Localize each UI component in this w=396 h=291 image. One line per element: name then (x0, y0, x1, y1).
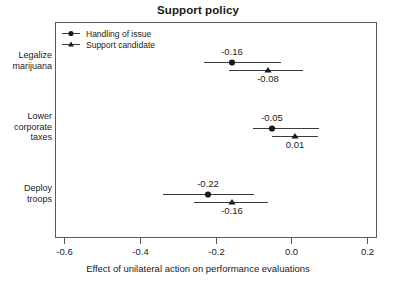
y-axis-label-deploy-troops: Deploy troops (0, 183, 52, 204)
x-tick-label-4: 0.2 (348, 246, 388, 257)
y-label-line: marijuana (12, 61, 52, 71)
x-tick-label-1: -0.4 (121, 246, 161, 257)
y-label-line: troops (27, 194, 52, 204)
y-label-line: corporate (14, 122, 52, 132)
chart-figure: Support policy (0, 0, 396, 291)
page-title: Support policy (0, 4, 396, 16)
data-label-handling-troops: -0.22 (186, 178, 230, 189)
legend-item-support-candidate[interactable]: Support candidate (86, 40, 155, 50)
y-label-line: taxes (30, 132, 52, 142)
data-label-handling-legalize: -0.16 (210, 46, 254, 57)
x-tick-label-2: -0.2 (197, 246, 237, 257)
x-axis-title: Effect of unilateral action on performan… (0, 263, 396, 274)
y-label-line: Lower (27, 111, 52, 121)
data-label-support-taxes: 0.01 (273, 139, 317, 150)
data-label-support-troops: -0.16 (210, 205, 254, 216)
y-axis-label-legalize-marijuana: Legalize marijuana (0, 50, 52, 71)
data-label-support-legalize: -0.08 (246, 73, 290, 84)
y-label-line: Deploy (24, 183, 52, 193)
x-tick-label-0: -0.6 (45, 246, 85, 257)
y-label-line: Legalize (18, 50, 52, 60)
x-axis-ticks (65, 238, 368, 244)
x-tick-label-3: 0.0 (272, 246, 312, 257)
legend-item-handling-of-issue[interactable]: Handling of issue (86, 29, 151, 39)
y-axis-label-lower-corporate-taxes: Lower corporate taxes (0, 111, 52, 143)
data-label-handling-taxes: -0.05 (250, 112, 294, 123)
